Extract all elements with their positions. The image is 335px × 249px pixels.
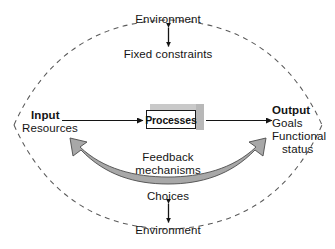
feedback-label-line2: mechanisms	[135, 164, 201, 177]
output-title: Output	[272, 104, 310, 117]
processes-label: Processes	[146, 110, 196, 129]
input-item-resources: Resources	[22, 122, 78, 135]
output-item-goals: Goals	[272, 117, 303, 130]
diagram-canvas: Environment Fixed constraints Input Reso…	[0, 0, 335, 249]
top-environment-label: Environment	[135, 13, 201, 26]
processes-box[interactable]: Processes	[146, 104, 204, 130]
choices-label: Choices	[147, 190, 189, 203]
feedback-label-line1: Feedback	[142, 151, 193, 164]
fixed-constraints-label: Fixed constraints	[124, 48, 213, 61]
output-item-functional: Functional	[272, 130, 326, 143]
processes-box-side-face	[196, 104, 204, 130]
output-item-status: status	[282, 143, 313, 156]
bottom-environment-label: Environment	[135, 224, 201, 237]
input-title: Input	[31, 109, 60, 122]
